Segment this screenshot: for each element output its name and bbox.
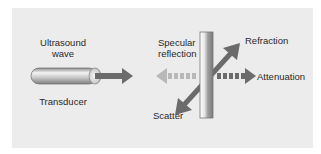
- specular-reflection-arrow: [156, 68, 196, 84]
- specular-reflection-label-line1: Specular: [158, 37, 197, 48]
- transducer-label: Transducer: [35, 96, 91, 107]
- attenuation-label: Attenuation: [257, 71, 305, 82]
- specular-reflection-label: Specular reflection: [158, 37, 197, 59]
- scatter-label: Scatter: [153, 110, 183, 121]
- ultrasound-wave-arrow: [95, 68, 133, 84]
- ultrasound-wave-label-line1: Ultrasound: [35, 37, 91, 48]
- specular-reflection-label-line2: reflection: [158, 48, 197, 59]
- tissue-interface-plate: [200, 32, 213, 118]
- refraction-label: Refraction: [245, 35, 288, 46]
- transducer-icon: [31, 68, 101, 84]
- ultrasound-wave-label-line2: wave: [35, 48, 91, 59]
- ultrasound-wave-label: Ultrasound wave: [35, 37, 91, 59]
- attenuation-arrow: [217, 68, 256, 84]
